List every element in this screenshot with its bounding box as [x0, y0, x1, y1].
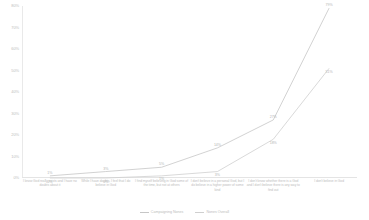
data-point-label: 79%: [326, 3, 333, 7]
x-axis-labels: I know God really exists and I have no d…: [22, 179, 357, 205]
y-axis-tick-label: 10%: [11, 155, 19, 159]
x-axis-category-label: While I have doubts, I feel that I do be…: [78, 179, 134, 205]
data-point-label: 51%: [326, 70, 333, 74]
y-axis-tick-label: 20%: [11, 133, 19, 137]
legend-line-swatch: [195, 212, 204, 213]
y-axis-tick-label: 0%: [13, 176, 19, 180]
y-axis-tick-label: 30%: [11, 112, 19, 116]
legend-item[interactable]: Campaigning Nones: [140, 210, 184, 214]
legend-item[interactable]: Nones Overall: [195, 210, 229, 214]
y-axis-tick-label: 40%: [11, 90, 19, 94]
data-point-label: 18%: [270, 141, 277, 145]
data-point-label: 1%: [47, 171, 52, 175]
chart-legend: Campaigning NonesNones Overall: [0, 206, 369, 218]
y-axis-tick-label: 70%: [11, 26, 19, 30]
y-axis-tick-label: 80%: [11, 4, 19, 8]
y-axis-tick-label: 60%: [11, 47, 19, 51]
x-axis-category-label: I don't know whether there is a God and …: [245, 179, 301, 205]
series-line: [50, 8, 329, 176]
x-axis-category-label: I find myself believing in God some of t…: [134, 179, 190, 205]
legend-label: Nones Overall: [206, 210, 229, 214]
series-line: [50, 68, 329, 178]
y-axis-tick-label: 50%: [11, 69, 19, 73]
data-point-label: 3%: [215, 173, 220, 177]
legend-label: Campaigning Nones: [151, 210, 184, 214]
data-point-label: 3%: [103, 167, 108, 171]
y-axis: 80%70%60%50%40%30%20%10%0%: [0, 6, 22, 178]
data-point-label: 27%: [270, 115, 277, 119]
x-axis-category-label: I don't believe in God: [301, 179, 357, 205]
legend-line-swatch: [140, 212, 149, 213]
series-lines: [22, 6, 357, 178]
x-axis-category-label: I know God really exists and I have no d…: [22, 179, 78, 205]
line-chart: 80%70%60%50%40%30%20%10%0% 1%3%5%14%27%7…: [0, 0, 369, 220]
plot-area: 1%3%5%14%27%79%0%0%1%3%18%51%: [22, 6, 357, 178]
data-point-label: 14%: [214, 143, 221, 147]
x-axis-category-label: I don't believe in a personal God, but I…: [189, 179, 245, 205]
data-point-label: 5%: [159, 162, 164, 166]
